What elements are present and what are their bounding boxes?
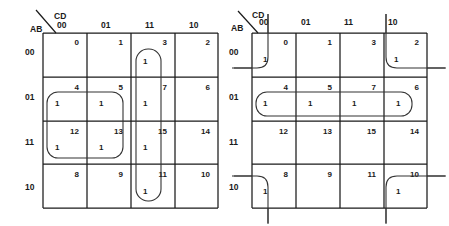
group-column-3-7-15-11 <box>136 49 161 201</box>
cell-number: 12 <box>279 127 288 136</box>
right-cell-1: 1 <box>328 38 333 47</box>
right-cell-14: 14 <box>410 127 419 136</box>
cell-number: 12 <box>70 127 79 136</box>
cell-value: 1 <box>55 99 60 108</box>
cell-number: 3 <box>163 38 168 47</box>
right-cell-4: 4 1 <box>263 83 289 108</box>
cell-number: 10 <box>410 170 419 179</box>
right-cell-9: 9 <box>328 170 333 179</box>
left-cell-13: 13 1 <box>99 127 124 152</box>
right-cell-3: 3 <box>372 38 377 47</box>
cell-number: 0 <box>284 38 289 47</box>
left-cell-3: 3 1 <box>143 38 168 66</box>
left-cell-1: 1 <box>119 38 124 47</box>
cell-value: 1 <box>143 143 148 152</box>
cell-number: 9 <box>328 170 333 179</box>
right-col-header-11: 11 <box>344 17 353 27</box>
left-cell-14: 14 <box>201 127 210 136</box>
right-cell-11: 11 <box>368 170 377 179</box>
left-cell-11: 11 1 <box>143 170 168 196</box>
right-col-header-10: 10 <box>388 17 398 27</box>
cell-number: 3 <box>372 38 377 47</box>
right-grid <box>252 33 427 208</box>
cell-number: 6 <box>415 83 420 92</box>
cell-value: 1 <box>396 99 401 108</box>
cell-value: 1 <box>99 99 104 108</box>
left-row-header-11: 11 <box>25 137 34 147</box>
cell-number: 0 <box>75 38 80 47</box>
kmap-canvas: CD AB 00 01 11 10 00 01 11 10 0 <box>0 0 449 226</box>
group-corner-10 <box>386 176 445 223</box>
cell-number: 14 <box>410 127 419 136</box>
right-cell-15: 15 <box>367 127 376 136</box>
left-cell-7: 7 1 <box>143 83 168 108</box>
right-cell-10: 10 1 <box>396 170 420 196</box>
cell-value: 1 <box>396 187 401 196</box>
kmap-left: CD AB 00 01 11 10 00 01 11 10 0 <box>25 10 218 208</box>
cell-number: 5 <box>119 83 124 92</box>
left-cell-12: 12 1 <box>55 127 80 152</box>
right-cell-6: 6 1 <box>396 83 420 108</box>
right-row-header-10: 10 <box>229 182 239 192</box>
left-cell-9: 9 <box>119 170 124 179</box>
cell-number: 8 <box>75 170 80 179</box>
karnaugh-map-figure: CD AB 00 01 11 10 00 01 11 10 0 <box>0 0 449 226</box>
cell-number: 15 <box>367 127 376 136</box>
cell-number: 4 <box>75 83 80 92</box>
right-row-var-label: AB <box>231 23 243 33</box>
left-col-header-10: 10 <box>189 20 199 30</box>
cell-value: 1 <box>143 57 148 66</box>
cell-number: 13 <box>323 127 332 136</box>
cell-value: 1 <box>55 143 60 152</box>
cell-number: 4 <box>284 83 289 92</box>
cell-number: 5 <box>328 83 333 92</box>
left-row-header-00: 00 <box>25 47 35 57</box>
group-corner-8 <box>234 176 268 223</box>
right-cell-13: 13 <box>323 127 332 136</box>
left-cell-0: 0 <box>75 38 80 47</box>
left-col-header-01: 01 <box>101 20 111 30</box>
cell-number: 2 <box>206 38 211 47</box>
right-cell-12: 12 <box>279 127 288 136</box>
left-row-header-01: 01 <box>25 92 35 102</box>
cell-number: 2 <box>415 38 420 47</box>
left-col-header-11: 11 <box>145 20 154 30</box>
left-cell-8: 8 <box>75 170 80 179</box>
cell-number: 11 <box>368 170 377 179</box>
right-cell-0: 0 1 <box>263 38 289 64</box>
right-cell-5: 5 1 <box>308 83 333 108</box>
cell-number: 15 <box>158 127 167 136</box>
left-cell-10: 10 <box>201 170 210 179</box>
left-cell-15: 15 1 <box>143 127 168 152</box>
left-cell-2: 2 <box>206 38 211 47</box>
cell-number: 1 <box>328 38 333 47</box>
cell-value: 1 <box>263 99 268 108</box>
left-cell-4: 4 1 <box>55 83 80 108</box>
cell-number: 7 <box>163 83 168 92</box>
left-col-header-00: 00 <box>57 20 67 30</box>
right-row-header-00: 00 <box>229 47 239 57</box>
left-row-header-10: 10 <box>25 182 35 192</box>
cell-value: 1 <box>352 99 357 108</box>
cell-value: 1 <box>143 187 148 196</box>
cell-number: 1 <box>119 38 124 47</box>
right-col-header-01: 01 <box>301 17 311 27</box>
right-cell-2: 2 1 <box>394 38 420 64</box>
left-grid <box>43 33 218 208</box>
left-cell-6: 6 <box>206 83 211 92</box>
kmap-right: CD AB 00 01 11 10 00 01 11 10 <box>229 10 446 224</box>
right-row-header-01: 01 <box>229 92 239 102</box>
cell-number: 11 <box>159 170 168 179</box>
group-row-4-5-7-6 <box>256 92 412 116</box>
cell-number: 13 <box>114 127 123 136</box>
cell-value: 1 <box>143 99 148 108</box>
cell-value: 1 <box>308 99 313 108</box>
cell-value: 1 <box>99 143 104 152</box>
cell-number: 7 <box>372 83 377 92</box>
right-cell-7: 7 1 <box>352 83 377 108</box>
right-col-header-00: 00 <box>259 17 269 27</box>
cell-value: 1 <box>394 55 399 64</box>
cell-number: 10 <box>201 170 210 179</box>
right-row-header-11: 11 <box>229 137 238 147</box>
cell-number: 9 <box>119 170 124 179</box>
